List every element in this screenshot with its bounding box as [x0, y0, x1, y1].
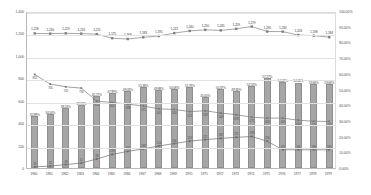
y-axis-left-tick: 0 [0, 167, 24, 171]
x-axis-tick: 1962 [61, 172, 68, 176]
rising-value-label: 291 [234, 132, 239, 136]
x-axis-tick: 1977 [294, 172, 301, 176]
y-axis-right-tick: 100.00% [339, 10, 353, 14]
rising-value-label: 35 [49, 161, 52, 165]
total-value-label: 1,203 [295, 29, 303, 33]
x-axis-tick: 1975 [263, 172, 270, 176]
declining-value-label: 730 [79, 90, 84, 94]
share-percent-label: 52.53% [247, 83, 257, 87]
share-percent-label: 51.38% [138, 84, 148, 88]
x-axis-tick: 1974 [247, 172, 254, 176]
x-axis-tick: 1973 [232, 172, 239, 176]
share-percent-label: 53.66% [324, 81, 334, 85]
total-value-label: 1,245 [217, 24, 225, 28]
x-axis-tick: 1968 [154, 172, 161, 176]
share-percent-label: 51.79% [185, 84, 195, 88]
total-value-label: 1,221 [171, 27, 179, 31]
share-percent-label: 38.13% [61, 105, 71, 109]
total-value-label: 1,250 [202, 24, 210, 28]
gridline [27, 148, 335, 149]
x-axis-tick: 1960 [30, 172, 37, 176]
total-value-label: 1,195 [155, 30, 163, 34]
declining-value-label: 471 [249, 119, 254, 123]
y-axis-left-tick: 800 [0, 77, 24, 81]
total-value-label: 1,218 [31, 27, 39, 31]
share-percent-label: 49.03% [123, 88, 133, 92]
declining-value-label: 571 [141, 108, 146, 112]
share-percent-label: 34.54% [45, 111, 55, 115]
total-value-label: 1,259 [233, 23, 241, 27]
x-axis-tick: 1966 [123, 172, 130, 176]
declining-value-label: 463 [280, 120, 285, 124]
declining-value-label: 742 [63, 89, 68, 93]
x-axis-tick: 1971 [201, 172, 208, 176]
share-percent-label: 32.89% [30, 113, 40, 117]
share-percent-label: 45.72% [92, 93, 102, 97]
total-value-label: 1,219 [62, 27, 70, 31]
x-axis-tick: 1976 [278, 172, 285, 176]
rising-value-label: 282 [218, 133, 223, 137]
y-axis-left-tick: 1,000 [0, 55, 24, 59]
total-value-label: 1,240 [186, 25, 194, 29]
plot-area: 1,2181,2161,2191,2161,2111,1751,1681,183… [26, 12, 336, 169]
declining-value-label: 493 [234, 117, 239, 121]
x-axis-tick: 1964 [92, 172, 99, 176]
gridline [27, 103, 335, 104]
x-axis-tick: 1978 [309, 172, 316, 176]
total-value-label: 1,279 [248, 21, 256, 25]
share-percent-label: 50.37% [216, 86, 226, 90]
y-axis-left-tick: 600 [0, 100, 24, 104]
rising-value-label: 139 [110, 149, 115, 153]
x-axis-tick: 1969 [170, 172, 177, 176]
gridline [27, 13, 335, 14]
y-axis-right-tick: 80.00% [339, 41, 351, 45]
rising-value-label: 256 [265, 136, 270, 140]
y-axis-left-tick: 1,400 [0, 10, 24, 14]
x-axis-tick: 1979 [325, 172, 332, 176]
declining-value-label: 521 [187, 114, 192, 118]
share-percent-label: 45.00% [200, 94, 210, 98]
declining-value-label: 463 [265, 120, 270, 124]
rising-value-label: 214 [156, 141, 161, 145]
total-value-label: 1,216 [78, 28, 86, 32]
rising-value-label: 236 [172, 139, 177, 143]
declining-value-label: 766 [48, 86, 53, 90]
total-value-label: 1,235 [264, 26, 272, 30]
rising-value-label: 257 [187, 136, 192, 140]
share-percent-label: 49.88% [154, 87, 164, 91]
rising-value-label: 299 [249, 131, 254, 135]
y-axis-right-tick: 50.00% [339, 89, 351, 93]
gridline [27, 35, 335, 36]
x-axis-tick: 1972 [216, 172, 223, 176]
y-axis-right-tick: 60.00% [339, 73, 351, 77]
declining-value-label: 602 [110, 104, 115, 108]
total-value-label: 1,211 [93, 28, 100, 32]
share-percent-label: 47.99% [107, 90, 117, 94]
share-percent-label: 53.66% [309, 81, 319, 85]
declining-value-label: 588 [125, 106, 130, 110]
declining-value-label: 545 [156, 111, 161, 115]
rising-value-label: 48 [64, 160, 67, 164]
x-axis-tick: 1965 [108, 172, 115, 176]
declining-value-label: 528 [203, 113, 208, 117]
total-value-label: 1,198 [310, 30, 318, 34]
y-axis-right-tick: 0.00% [339, 167, 349, 171]
total-value-label: 1,234 [279, 26, 287, 30]
y-axis-right-tick: 10.00% [339, 151, 351, 155]
x-axis-tick: 1970 [185, 172, 192, 176]
y-axis-left-tick: 1,200 [0, 32, 24, 36]
y-axis-right-tick: 70.00% [339, 57, 351, 61]
y-axis-right-tick: 90.00% [339, 26, 351, 30]
gridline [27, 80, 335, 81]
share-percent-label: 57.27% [262, 75, 272, 79]
declining-value-label: 508 [218, 115, 223, 119]
rising-value-label: 62 [80, 158, 83, 162]
rising-value-label: 271 [203, 135, 208, 139]
gridline [27, 125, 335, 126]
y-axis-right-tick: 30.00% [339, 120, 351, 124]
y-axis-right-tick: 40.00% [339, 104, 351, 108]
x-axis-tick: 1961 [46, 172, 53, 176]
x-axis-tick: 1963 [77, 172, 84, 176]
y-axis-right-tick: 20.00% [339, 136, 351, 140]
y-axis-left-tick: 200 [0, 145, 24, 149]
